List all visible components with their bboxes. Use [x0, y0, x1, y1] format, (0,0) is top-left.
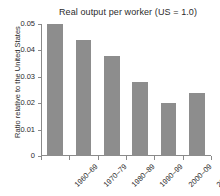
x-tick-label: 1970–79: [101, 162, 128, 189]
chart-title: Real output per worker (US = 1.0): [36, 7, 220, 18]
x-tick-mark: [154, 156, 155, 160]
x-tick-mark: [183, 156, 184, 160]
bar-chart: Real output per worker (US = 1.0) Ratio …: [0, 0, 220, 196]
x-tick-label: 2000–09: [186, 162, 213, 189]
bar: [132, 82, 148, 156]
y-axis-title: Ratio relative to the United States: [14, 7, 22, 157]
x-tick-label: 1980–89: [129, 162, 156, 189]
bar: [47, 24, 63, 156]
bar: [104, 56, 120, 156]
bar: [76, 40, 92, 156]
y-tick-label: 0.05: [20, 19, 35, 28]
y-tick-label: 0.03: [20, 72, 35, 81]
y-tick-label: 0.01: [20, 125, 35, 134]
x-tick-mark: [98, 156, 99, 160]
x-tick-mark: [41, 156, 42, 160]
x-tick-label: 2010–17: [214, 162, 220, 189]
bar: [161, 103, 177, 156]
y-tick-label: 0.02: [20, 98, 35, 107]
x-tick-mark: [69, 156, 70, 160]
x-tick-label: 1990–99: [158, 162, 185, 189]
bar: [189, 93, 205, 156]
x-tick-mark: [126, 156, 127, 160]
x-tick-mark: [211, 156, 212, 160]
y-tick-label: 0.04: [20, 45, 35, 54]
x-tick-label: 1960–69: [73, 162, 100, 189]
y-tick-label: 0: [31, 151, 35, 160]
bars-layer: [41, 24, 211, 156]
